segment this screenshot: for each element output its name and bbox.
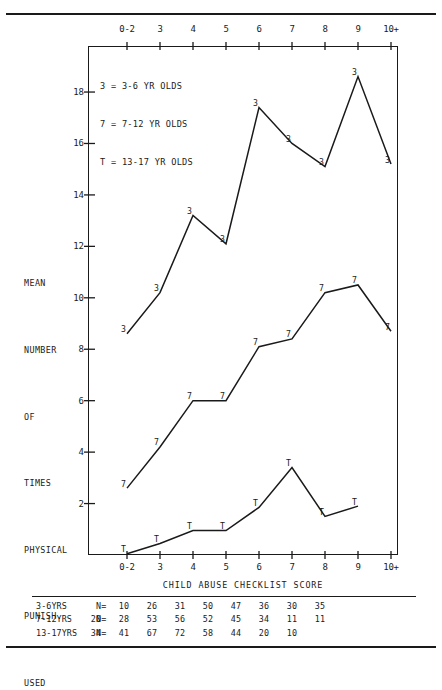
table-cell-r2-c7: 10: [281, 627, 303, 640]
x-tick-label-bottom-4: 6: [256, 562, 261, 572]
data-point-7-3: 7: [220, 392, 225, 400]
legend-item-7: 7 = 7-12 YR OLDS: [100, 118, 193, 131]
table-cell-r1-c6: 34: [253, 613, 275, 626]
data-point-T-1: T: [154, 535, 159, 543]
table-cell-r1-c4: 52: [197, 613, 219, 626]
data-point-7-1: 7: [154, 438, 159, 446]
data-point-3-2: 3: [187, 207, 192, 215]
y-axis-title-line-5: PHYSICAL: [24, 539, 68, 561]
x-tick-label-top-0: 0-2: [119, 24, 135, 34]
x-tick-label-top-2: 4: [190, 24, 195, 34]
y-tick-label-10: 10: [60, 293, 84, 303]
data-point-3-6: 3: [319, 158, 324, 166]
y-tick-label-12: 12: [60, 241, 84, 251]
page-rule-top: [6, 13, 436, 15]
data-point-T-0: T: [121, 545, 126, 553]
data-point-3-3: 3: [220, 235, 225, 243]
table-row-label-2: 13-17YRS: [36, 627, 77, 640]
table-cell-r0-c8: 35: [309, 600, 331, 613]
table-rule-bottom: [32, 646, 416, 647]
data-point-7-7: 7: [352, 276, 357, 284]
data-point-7-0: 7: [121, 480, 126, 488]
table-cell-r2-c2: 67: [141, 627, 163, 640]
data-point-T-3: T: [220, 522, 225, 530]
data-point-3-8: 3: [385, 155, 390, 163]
table-cell-r1-c5: 45: [225, 613, 247, 626]
legend: 3 = 3-6 YR OLDS 7 = 7-12 YR OLDS T = 13-…: [100, 55, 193, 194]
data-point-3-7: 3: [352, 68, 357, 76]
table-row-n-prefix-0: N=: [96, 600, 106, 613]
x-tick-label-bottom-1: 3: [157, 562, 162, 572]
table-cell-r2-c0: 34: [85, 627, 107, 640]
table-cell-r2-c5: 44: [225, 627, 247, 640]
data-point-7-4: 7: [253, 338, 258, 346]
table-cell-r1-c2: 53: [141, 613, 163, 626]
x-axis-title: CHILD ABUSE CHECKLIST SCORE: [88, 580, 398, 590]
data-point-7-5: 7: [286, 330, 291, 338]
data-point-T-7: T: [352, 498, 357, 506]
table-row-label-1: 7-12YRS: [36, 613, 72, 626]
y-tick-label-6: 6: [60, 396, 84, 406]
x-tick-label-top-4: 6: [256, 24, 261, 34]
x-tick-label-bottom-3: 5: [223, 562, 228, 572]
data-point-T-6: T: [319, 508, 324, 516]
data-point-7-6: 7: [319, 284, 324, 292]
data-point-T-5: T: [286, 459, 291, 467]
y-tick-label-18: 18: [60, 87, 84, 97]
x-tick-label-bottom-6: 8: [322, 562, 327, 572]
data-point-3-0: 3: [121, 325, 126, 333]
data-point-7-2: 7: [187, 392, 192, 400]
y-tick-label-16: 16: [60, 138, 84, 148]
y-tick-label-14: 14: [60, 190, 84, 200]
y-axis-title-line-4: TIMES: [24, 472, 68, 494]
y-tick-label-4: 4: [60, 447, 84, 457]
table-cell-r1-c1: 28: [113, 613, 135, 626]
data-point-T-4: T: [253, 499, 258, 507]
x-tick-label-bottom-5: 7: [289, 562, 294, 572]
x-tick-label-top-8: 10+: [383, 24, 399, 34]
x-tick-label-top-5: 7: [289, 24, 294, 34]
data-point-7-8: 7: [385, 323, 390, 331]
x-tick-label-bottom-8: 10+: [383, 562, 399, 572]
x-tick-label-top-3: 5: [223, 24, 228, 34]
x-tick-label-top-7: 9: [355, 24, 360, 34]
table-cell-r0-c7: 30: [281, 600, 303, 613]
table-rule-top: [32, 596, 416, 597]
table-cell-r2-c4: 58: [197, 627, 219, 640]
x-tick-label-bottom-0: 0-2: [119, 562, 135, 572]
y-axis-title-line-3: OF: [24, 406, 68, 428]
data-point-3-5: 3: [286, 135, 291, 143]
table-cell-r2-c3: 72: [169, 627, 191, 640]
table-row-label-0: 3-6YRS: [36, 600, 67, 613]
data-point-3-4: 3: [253, 99, 258, 107]
y-tick-label-2: 2: [60, 499, 84, 509]
table-cell-r2-c1: 41: [113, 627, 135, 640]
data-point-3-1: 3: [154, 284, 159, 292]
x-tick-label-top-6: 8: [322, 24, 327, 34]
x-tick-label-bottom-7: 9: [355, 562, 360, 572]
table-cell-r0-c3: 31: [169, 600, 191, 613]
table-cell-r0-c5: 47: [225, 600, 247, 613]
table-cell-r1-c3: 56: [169, 613, 191, 626]
table-cell-r0-c4: 50: [197, 600, 219, 613]
table-cell-r1-c8: 11: [309, 613, 331, 626]
table-cell-r0-c6: 36: [253, 600, 275, 613]
table-cell-r1-c7: 11: [281, 613, 303, 626]
x-tick-label-top-1: 3: [157, 24, 162, 34]
table-cell-r0-c1: 10: [113, 600, 135, 613]
table-cell-r0-c2: 26: [141, 600, 163, 613]
y-axis-title-line-1: MEAN: [24, 272, 68, 294]
table-cell-r2-c6: 20: [253, 627, 275, 640]
y-axis-title-line-7: USED: [24, 672, 68, 690]
legend-item-3: 3 = 3-6 YR OLDS: [100, 80, 193, 93]
x-tick-label-bottom-2: 4: [190, 562, 195, 572]
legend-item-T: T = 13-17 YR OLDS: [100, 156, 193, 169]
table-cell-r1-c0: 20: [85, 613, 107, 626]
data-point-T-2: T: [187, 522, 192, 530]
y-tick-label-8: 8: [60, 344, 84, 354]
